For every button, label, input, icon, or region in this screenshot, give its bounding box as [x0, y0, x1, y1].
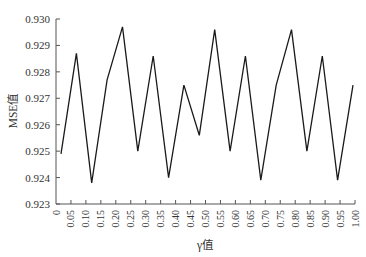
y-tick-label: 0.927: [25, 92, 50, 104]
y-tick-label: 0.926: [25, 119, 50, 131]
x-tick-label: 0.15: [95, 210, 106, 228]
plot-area: [61, 27, 353, 183]
x-tick-label: 0.05: [65, 210, 76, 228]
x-tick-label: 0.40: [170, 210, 181, 228]
x-tick-label: 0.85: [305, 210, 316, 228]
x-tick-label: 0.10: [80, 210, 91, 228]
mse-line-chart: 0.9230.9240.9250.9260.9270.9280.9290.930…: [0, 0, 366, 257]
y-tick-label: 0.924: [25, 172, 50, 184]
x-tick-label: 0.80: [290, 210, 301, 228]
x-tick-label: 0.75: [275, 210, 286, 228]
y-tick-label: 0.923: [25, 198, 50, 210]
y-tick-label: 0.930: [25, 13, 50, 25]
x-tick-label: 0.65: [245, 210, 256, 228]
x-tick-label: 1.00: [350, 210, 361, 228]
x-tick-label: 0.55: [215, 210, 226, 228]
x-tick-label: 0.25: [125, 210, 136, 228]
x-tick-label: 0: [51, 210, 62, 215]
x-tick-label: 0.95: [335, 210, 346, 228]
y-axis: 0.9230.9240.9250.9260.9270.9280.9290.930: [25, 13, 60, 210]
x-tick-label: 0.50: [200, 210, 211, 228]
x-tick-label: 0.90: [320, 210, 331, 228]
y-tick-label: 0.925: [25, 145, 50, 157]
x-axis: 00.050.100.150.200.250.300.350.400.450.5…: [51, 200, 361, 228]
y-tick-label: 0.929: [25, 39, 50, 51]
x-tick-label: 0.70: [260, 210, 271, 228]
mse-series-line: [61, 27, 353, 183]
y-axis-title: MSE值: [7, 93, 19, 129]
x-axis-title: γ值: [196, 239, 214, 252]
x-tick-label: 0.30: [140, 210, 151, 228]
x-tick-label: 0.45: [185, 210, 196, 228]
y-tick-label: 0.928: [25, 66, 50, 78]
x-tick-label: 0.60: [230, 210, 241, 228]
x-tick-label: 0.20: [110, 210, 121, 228]
x-tick-label: 0.35: [155, 210, 166, 228]
chart-canvas: 0.9230.9240.9250.9260.9270.9280.9290.930…: [0, 0, 366, 257]
